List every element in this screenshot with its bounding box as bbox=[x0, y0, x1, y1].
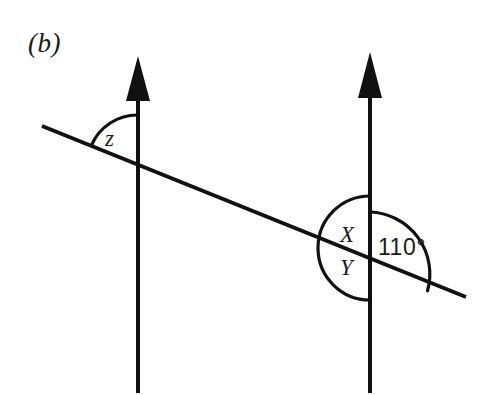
angle-x-label: X bbox=[340, 222, 354, 248]
right-arrow-head-icon bbox=[358, 52, 382, 98]
angle-z-label: z bbox=[105, 126, 114, 152]
angle-110-label: 110° bbox=[378, 234, 426, 261]
angle-z-arc bbox=[92, 115, 138, 145]
left-arrow-head-icon bbox=[126, 56, 150, 101]
panel-label: (b) bbox=[28, 28, 61, 59]
geometry-diagram-canvas bbox=[0, 0, 484, 395]
geometry-figure: (b) z X Y 110° bbox=[0, 0, 484, 395]
angle-y-label: Y bbox=[340, 255, 353, 281]
